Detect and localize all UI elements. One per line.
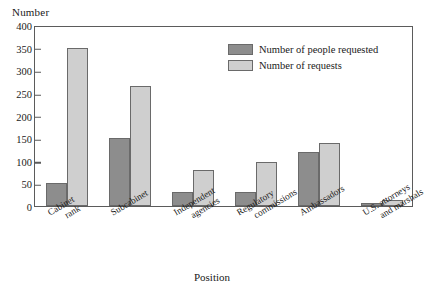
legend-label: Number of people requested — [259, 44, 378, 55]
y-axis-tick: 50 — [22, 180, 36, 191]
y-axis-tick: 100 — [16, 158, 35, 169]
legend-item: Number of people requested — [228, 44, 378, 55]
y-axis-tick: 300 — [16, 67, 35, 78]
legend-label: Number of requests — [259, 60, 342, 71]
y-axis-tick: 200 — [16, 112, 35, 123]
bar — [130, 86, 151, 206]
bar-chart: Number 050100150200250300350400 Cabinetr… — [0, 0, 424, 291]
y-axis-tick: 0 — [27, 203, 35, 214]
y-axis-tick: 150 — [16, 135, 35, 146]
y-axis-tick-label: 150 — [16, 135, 35, 146]
x-axis-title: Position — [0, 271, 424, 283]
bar — [109, 138, 130, 206]
y-axis-title: Number — [12, 6, 49, 18]
y-axis-tick-label: 50 — [22, 180, 36, 191]
y-axis-tick-label: 100 — [16, 158, 35, 169]
bar — [67, 48, 88, 206]
y-axis-tick-label: 400 — [16, 22, 35, 33]
y-axis-tick-label: 0 — [27, 203, 35, 214]
legend-item: Number of requests — [228, 60, 378, 71]
y-axis-tick-label: 300 — [16, 67, 35, 78]
y-axis-tick: 400 — [16, 22, 35, 33]
y-axis-tick-label: 200 — [16, 112, 35, 123]
y-axis-tick: 250 — [16, 90, 35, 101]
legend-swatch — [228, 60, 253, 71]
y-axis-tick: 350 — [16, 44, 35, 55]
y-axis-tick-label: 350 — [16, 44, 35, 55]
y-axis-tick-label: 250 — [16, 90, 35, 101]
legend-swatch — [228, 44, 253, 55]
legend: Number of people requestedNumber of requ… — [228, 44, 378, 71]
